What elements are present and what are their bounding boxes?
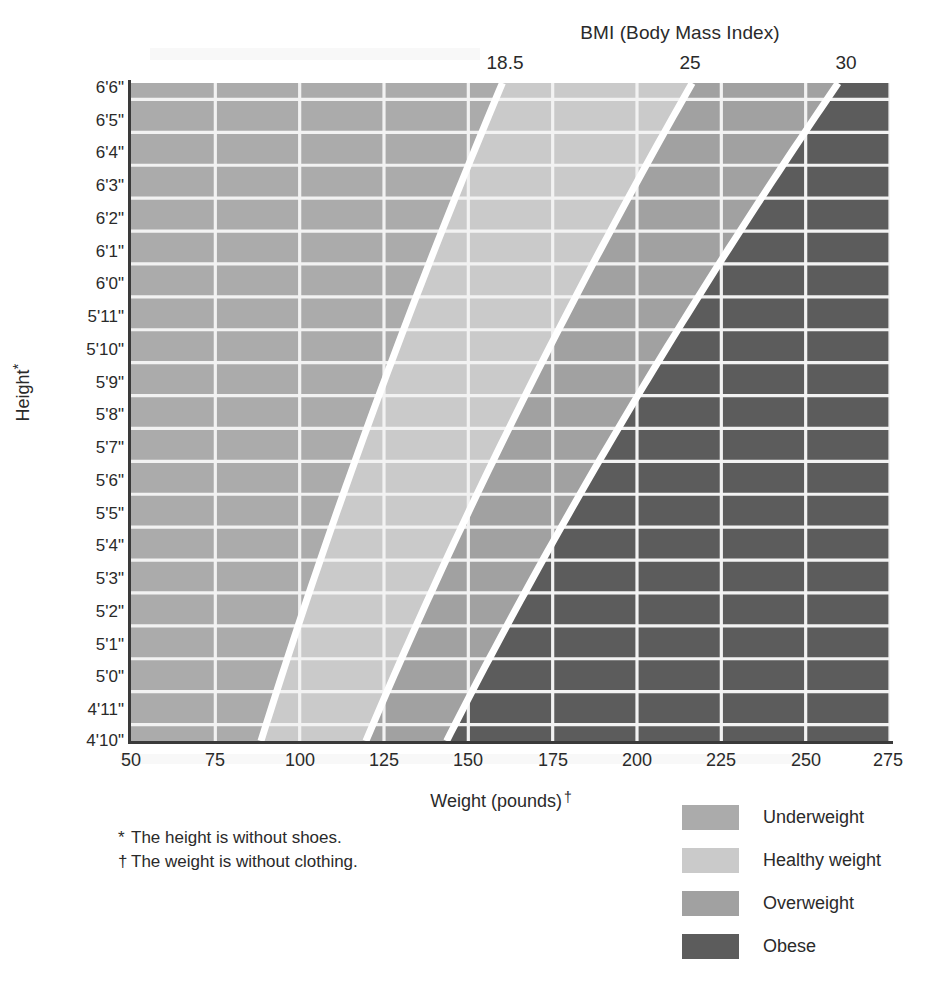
height-tick-label: 5'4" [50,536,124,556]
weight-tick-label: 125 [369,750,399,771]
weight-tick-label: 175 [538,750,568,771]
plot-regions-svg [131,83,890,741]
height-axis-title-text: Height [13,369,33,421]
legend-label: Overweight [763,893,854,914]
height-tick-label: 6'4" [50,143,124,163]
height-tick-label: 5'11" [50,307,124,327]
legend-item: Underweight [682,796,881,839]
legend-swatch [682,934,739,959]
height-tick-label: 4'11" [50,700,124,720]
height-tick-label: 5'3" [50,569,124,589]
legend: UnderweightHealthy weightOverweightObese [682,796,881,968]
weight-tick-label: 150 [453,750,483,771]
height-tick-label: 6'5" [50,111,124,131]
height-tick-label: 6'6" [50,78,124,98]
weight-tick-label: 225 [706,750,736,771]
weight-tick-label: 275 [873,750,903,771]
height-tick-label: 6'1" [50,242,124,262]
legend-swatch [682,805,739,830]
footnote-marker: * [118,826,131,850]
height-tick-label: 5'10" [50,340,124,360]
height-axis-footnote-star: * [9,364,26,370]
bmi-tick-label: 18.5 [487,52,524,74]
legend-label: Healthy weight [763,850,881,871]
height-tick-label: 5'0" [50,667,124,687]
bmi-tick-label: 30 [835,52,856,74]
weight-tick-label: 100 [285,750,315,771]
height-tick-label: 5'8" [50,405,124,425]
height-tick-label: 5'5" [50,504,124,524]
legend-item: Overweight [682,882,881,925]
plot-area [131,83,890,741]
footnote-text: The weight is without clothing. [131,852,358,871]
height-tick-label: 5'6" [50,471,124,491]
weight-axis-title-text: Weight (pounds) [430,791,562,811]
height-tick-label: 6'0" [50,274,124,294]
legend-item: Obese [682,925,881,968]
legend-label: Obese [763,936,816,957]
height-tick-label: 5'9" [50,373,124,393]
legend-item: Healthy weight [682,839,881,882]
height-axis-title: Height* [9,338,34,448]
weight-axis-title: Weight (pounds)† [311,789,691,812]
footnote-marker: † [118,850,131,874]
weight-tick-label: 200 [622,750,652,771]
legend-swatch [682,891,739,916]
height-tick-label: 5'7" [50,438,124,458]
height-tick-label: 4'10" [50,731,124,751]
height-tick-group: 6'6"6'5"6'4"6'3"6'2"6'1"6'0"5'11"5'10"5'… [46,0,124,994]
height-tick-label: 6'2" [50,209,124,229]
weight-tick-label: 50 [121,750,141,771]
height-tick-label: 6'3" [50,176,124,196]
weight-axis-footnote-dagger: † [562,789,572,805]
legend-label: Underweight [763,807,864,828]
height-tick-label: 5'2" [50,602,124,622]
bmi-axis-title: BMI (Body Mass Index) [480,22,880,44]
scan-artifact [150,48,480,60]
footnote-text: The height is without shoes. [131,828,342,847]
footnote: †The weight is without clothing. [118,850,358,874]
bmi-tick-label: 25 [679,52,700,74]
height-tick-label: 5'1" [50,635,124,655]
legend-swatch [682,848,739,873]
weight-tick-label: 250 [791,750,821,771]
footnote: *The height is without shoes. [118,826,358,850]
bmi-chart: BMI (Body Mass Index) 18.52530 Height* 6… [0,0,937,994]
footnotes: *The height is without shoes.†The weight… [118,826,358,874]
weight-tick-label: 75 [205,750,225,771]
